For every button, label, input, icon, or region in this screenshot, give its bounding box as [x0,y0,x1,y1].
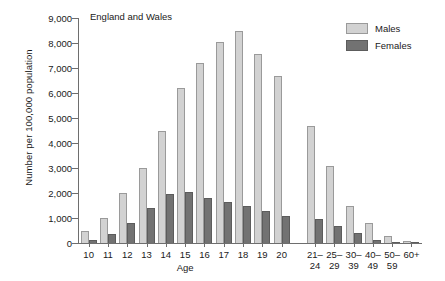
bar-females [89,240,97,243]
bar-females [373,240,381,243]
bar-males [346,206,354,244]
bar-females [334,226,342,244]
bar-group [118,18,137,243]
x-axis-tick-mark [392,243,393,247]
bar-males [81,231,89,244]
bar-males [177,88,185,243]
x-axis-tick-mark [185,243,186,247]
x-axis-tick-mark [127,243,128,247]
bar-females [224,202,232,243]
x-axis-tick-label: 17 [218,249,229,260]
bar-group [79,18,98,243]
x-axis-tick-label: 25– 29 [326,249,342,271]
x-axis-tick-label: 15 [180,249,191,260]
bar-males [307,126,315,244]
x-axis-tick-mark [315,243,316,247]
x-axis-tick-label: 18 [238,249,249,260]
x-axis-tick-mark [243,243,244,247]
x-axis-title: Age [177,262,194,273]
x-axis-tick-label: 10 [83,249,94,260]
bar-females [243,206,251,244]
females-swatch-icon [346,40,368,51]
bar-group [305,18,324,243]
bar-group [176,18,195,243]
bar-females [315,219,323,244]
y-axis-tick-label: 4,000 [48,138,72,149]
x-axis-tick-mark [334,243,335,247]
bar-females [262,211,270,244]
x-axis-tick-mark [282,243,283,247]
x-axis-tick-label: 12 [122,249,133,260]
bar-females [282,216,290,244]
legend-label-females: Females [375,40,411,51]
bar-males [139,168,147,243]
y-axis-tick-label: 3,000 [48,163,72,174]
bar-males [235,31,243,244]
y-axis-tick-label: 9,000 [48,13,72,24]
bar-females [392,242,400,244]
bar-females [147,208,155,243]
bar-group [195,18,214,243]
x-axis-tick-label: 50– 59 [384,249,400,271]
x-axis-tick-mark [204,243,205,247]
bar-group [272,18,291,243]
x-axis-tick-label: 60+ [403,249,419,260]
x-axis-tick-mark [373,243,374,247]
bar-group [137,18,156,243]
bar-males [158,131,166,244]
bar-females [185,192,193,243]
x-axis-tick-label: 40– 49 [365,249,381,271]
bar-group [156,18,175,243]
chart-title: England and Wales [90,11,172,22]
bar-females [166,194,174,243]
bar-males [326,166,334,244]
bar-group [233,18,252,243]
legend-label-males: Males [375,23,400,34]
bar-females [411,242,419,243]
bar-males [274,76,282,244]
x-axis-tick-label: 21– 24 [307,249,323,271]
x-axis-tick-label: 14 [161,249,172,260]
y-axis-tick-labels: 01,0002,0003,0004,0005,0006,0007,0008,00… [28,0,72,281]
x-axis-tick-label: 19 [257,249,268,260]
bar-females [108,234,116,244]
legend-item-males: Males [346,23,411,34]
x-axis-tick-mark [262,243,263,247]
bar-males [100,218,108,243]
y-axis-tick-label: 6,000 [48,88,72,99]
x-axis-line [78,243,422,244]
x-axis-tick-mark [147,243,148,247]
chart-legend: Males Females [346,23,411,57]
bar-males [403,241,411,244]
x-axis-tick-mark [224,243,225,247]
x-axis-tick-label: 16 [199,249,210,260]
bar-males [196,63,204,243]
bar-males [119,193,127,243]
x-axis-tick-label: 11 [103,249,113,260]
x-axis-tick-label: 20 [276,249,287,260]
x-axis-tick-mark [411,243,412,247]
x-axis-tick-label: 13 [141,249,152,260]
bar-males [365,223,373,243]
bar-females [204,198,212,243]
y-axis-tick-label: 5,000 [48,113,72,124]
y-axis-tick-label: 1,000 [48,213,72,224]
males-swatch-icon [346,23,368,34]
bar-females [127,223,135,243]
x-axis-tick-mark [89,243,90,247]
y-axis-tick-label: 2,000 [48,188,72,199]
bar-group [214,18,233,243]
bar-males [384,236,392,244]
x-axis-tick-mark [108,243,109,247]
bar-males [254,54,262,243]
legend-item-females: Females [346,40,411,51]
bar-males [216,42,224,243]
bar-females [354,233,362,244]
bar-group [98,18,117,243]
y-axis-tick-label: 8,000 [48,38,72,49]
y-axis-tick-label: 7,000 [48,63,72,74]
bar-chart: Number per 100,000 population 01,0002,00… [0,0,445,281]
x-axis-tick-label: 30– 39 [346,249,362,271]
x-axis-tick-mark [354,243,355,247]
x-axis-tick-mark [166,243,167,247]
